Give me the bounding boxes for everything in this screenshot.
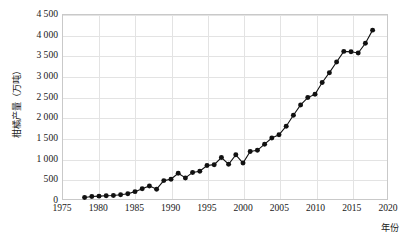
y-tick-label: 1 000: [20, 154, 58, 164]
x-tick-label: 1985: [114, 202, 154, 214]
x-tick-label: 2005: [259, 202, 299, 214]
data-point-marker: [140, 186, 145, 191]
x-tick-label: 2020: [368, 202, 408, 214]
data-point-marker: [197, 169, 202, 174]
data-point-marker: [226, 162, 231, 167]
x-tick-label: 1980: [78, 202, 118, 214]
data-point-marker: [370, 28, 375, 33]
x-tick-label: 1975: [42, 202, 82, 214]
y-tick-label: 2 500: [20, 92, 58, 102]
data-point-marker: [248, 149, 253, 154]
data-point-marker: [356, 51, 361, 56]
plot-area: [62, 14, 388, 200]
data-point-marker: [349, 49, 354, 54]
data-point-marker: [169, 177, 174, 182]
y-tick-label: 500: [20, 174, 58, 184]
data-point-marker: [183, 175, 188, 180]
data-point-marker: [219, 155, 224, 160]
x-axis-title: 年份: [381, 222, 399, 234]
x-axis-tick-labels: 1975198019851990199520002005201020152020: [0, 202, 409, 216]
data-point-marker: [205, 163, 210, 168]
data-point-marker: [313, 92, 318, 97]
data-point-marker: [82, 195, 87, 200]
data-point-marker: [111, 193, 116, 198]
data-point-marker: [277, 132, 282, 137]
x-tick-label: 1990: [151, 202, 191, 214]
data-point-marker: [262, 142, 267, 147]
x-tick-label: 2010: [296, 202, 336, 214]
y-tick-label: 2 000: [20, 112, 58, 122]
data-point-marker: [305, 95, 310, 100]
data-point-marker: [320, 80, 325, 85]
y-tick-label: 1 500: [20, 133, 58, 143]
y-tick-label: 4 000: [20, 30, 58, 40]
y-tick-label: 3 500: [20, 50, 58, 60]
series-line: [85, 30, 373, 197]
x-tick-label: 2000: [223, 202, 263, 214]
data-point-marker: [341, 49, 346, 54]
data-point-marker: [161, 178, 166, 183]
data-point-marker: [104, 193, 109, 198]
data-point-marker: [118, 192, 123, 197]
data-point-marker: [176, 171, 181, 176]
x-tick-label: 2015: [332, 202, 372, 214]
citrus-production-line-chart: 柑橘产量（万吨） 05001 0001 5002 0002 5003 0003 …: [0, 0, 409, 247]
data-point-marker: [241, 161, 246, 166]
data-point-marker: [327, 70, 332, 75]
data-point-marker: [212, 162, 217, 167]
data-point-marker: [269, 136, 274, 141]
data-point-marker: [97, 194, 102, 199]
data-point-marker: [284, 124, 289, 129]
data-point-marker: [154, 187, 159, 192]
data-point-marker: [363, 41, 368, 46]
x-tick-label: 1995: [187, 202, 227, 214]
data-point-marker: [190, 170, 195, 175]
data-point-marker: [133, 189, 138, 194]
data-point-marker: [298, 102, 303, 107]
data-series-citrus-production: [63, 15, 387, 199]
data-point-marker: [255, 148, 260, 153]
data-point-marker: [291, 113, 296, 118]
y-tick-label: 4 500: [20, 9, 58, 19]
data-point-marker: [125, 191, 130, 196]
data-point-marker: [89, 194, 94, 199]
data-point-marker: [334, 60, 339, 65]
data-point-marker: [233, 152, 238, 157]
y-tick-label: 3 000: [20, 71, 58, 81]
data-point-marker: [147, 183, 152, 188]
